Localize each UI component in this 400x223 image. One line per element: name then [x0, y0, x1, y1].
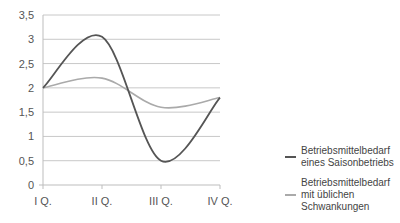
series-lines [43, 35, 220, 162]
y-tick-labels: 00,511,522,533,5 [19, 9, 34, 191]
legend-label: Betriebsmittelbedarf mit üblichen Schwan… [301, 177, 400, 213]
x-tick-label: III Q. [149, 195, 173, 207]
y-tick-label: 2 [28, 82, 34, 94]
x-tick-label: I Q. [34, 195, 52, 207]
legend-item-saisonbetrieb: Betriebsmittelbedarf eines Saisonbetrieb… [285, 145, 400, 169]
y-tick-label: 1,5 [19, 106, 34, 118]
y-tick-label: 2,5 [19, 58, 34, 70]
y-tick-label: 0 [28, 179, 34, 191]
x-tick-label: IV Q. [207, 195, 232, 207]
legend-swatch-saisonbetrieb [285, 156, 296, 158]
legend: Betriebsmittelbedarf eines Saisonbetrieb… [285, 145, 400, 217]
legend-swatch-schwankungen [285, 194, 296, 196]
y-tick-label: 0,5 [19, 155, 34, 167]
legend-item-schwankungen: Betriebsmittelbedarf mit üblichen Schwan… [285, 177, 400, 213]
legend-label: Betriebsmittelbedarf eines Saisonbetrieb… [301, 145, 400, 169]
x-tick-labels: I Q.II Q.III Q.IV Q. [34, 195, 232, 207]
y-tick-label: 3 [28, 33, 34, 45]
y-tick-label: 3,5 [19, 9, 34, 21]
y-tick-label: 1 [28, 130, 34, 142]
series-line-saisonbetrieb [43, 35, 220, 162]
x-tick-label: II Q. [92, 195, 113, 207]
series-line-schwankungen [43, 78, 220, 108]
axes [39, 15, 220, 189]
